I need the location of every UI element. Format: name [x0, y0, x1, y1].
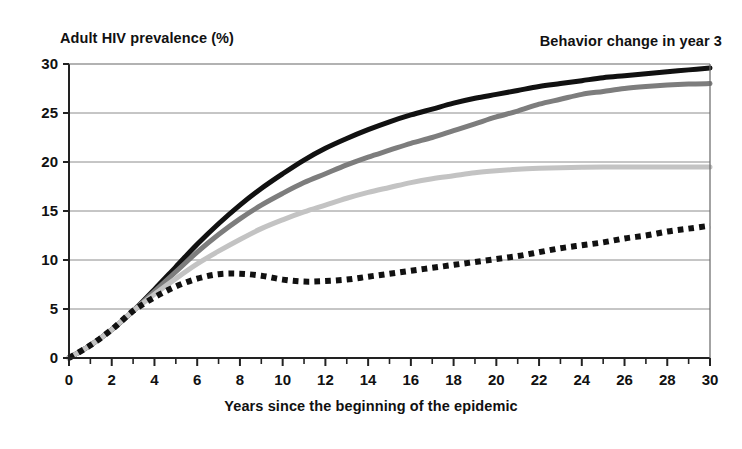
- x-axis-title: Years since the beginning of the epidemi…: [0, 398, 742, 414]
- x-tick-label: 2: [108, 371, 116, 388]
- y-tick-label: 0: [50, 349, 58, 366]
- chart-page: Adult HIV prevalence (%) Behavior change…: [0, 0, 742, 449]
- x-tick-label: 20: [488, 371, 505, 388]
- y-tick-label: 25: [41, 104, 58, 121]
- series-line-1: [69, 84, 710, 358]
- x-tick-label: 26: [616, 371, 633, 388]
- series-line-2: [69, 167, 710, 358]
- y-tick-label: 30: [41, 55, 58, 72]
- x-tick-label: 30: [702, 371, 719, 388]
- x-tick-label: 16: [403, 371, 420, 388]
- line-chart: 051015202530024681012141618202224262830: [0, 0, 742, 449]
- series-group: [69, 68, 710, 358]
- y-tick-label: 15: [41, 202, 58, 219]
- y-tick-label: 20: [41, 153, 58, 170]
- series-line-0: [69, 68, 710, 358]
- x-tick-label: 28: [659, 371, 676, 388]
- x-tick-label: 8: [236, 371, 244, 388]
- x-tick-label: 14: [360, 371, 377, 388]
- x-tick-label: 12: [317, 371, 334, 388]
- x-tick-label: 10: [274, 371, 291, 388]
- x-tick-label: 6: [193, 371, 201, 388]
- x-tick-label: 18: [445, 371, 462, 388]
- x-tick-label: 4: [150, 371, 159, 388]
- axes: [63, 64, 710, 366]
- x-tick-label: 22: [531, 371, 548, 388]
- x-tick-label: 24: [573, 371, 590, 388]
- y-tick-label: 10: [41, 251, 58, 268]
- tick-labels: 051015202530024681012141618202224262830: [41, 55, 718, 388]
- y-tick-label: 5: [50, 300, 58, 317]
- x-tick-label: 0: [65, 371, 73, 388]
- series-line-3: [69, 226, 710, 358]
